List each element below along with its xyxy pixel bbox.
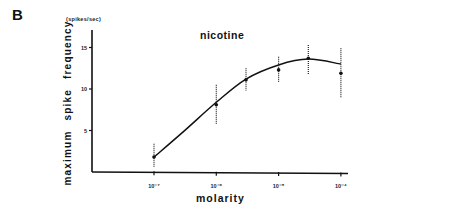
y-tick-label: 15 — [81, 45, 87, 51]
x-tick-label: 10⁻⁶ — [210, 183, 222, 189]
x-tick-label: 10⁻⁵ — [273, 183, 285, 189]
data-point — [152, 155, 156, 159]
y-tick-label: 10 — [81, 86, 87, 92]
data-point — [307, 56, 311, 60]
chart-plot-area: 5101510⁻⁷10⁻⁶10⁻⁵10⁻⁴ — [0, 0, 458, 217]
x-axis-line — [92, 172, 348, 174]
x-tick-label: 10⁻⁷ — [148, 183, 160, 189]
data-point — [244, 78, 248, 82]
data-points — [152, 45, 343, 168]
fit-curve-line — [154, 59, 341, 157]
x-tick-label: 10⁻⁴ — [335, 183, 347, 189]
data-point — [277, 68, 281, 72]
y-tick-label: 5 — [84, 128, 87, 134]
fit-curve — [154, 59, 341, 157]
data-point — [339, 71, 343, 75]
data-point — [215, 103, 219, 107]
